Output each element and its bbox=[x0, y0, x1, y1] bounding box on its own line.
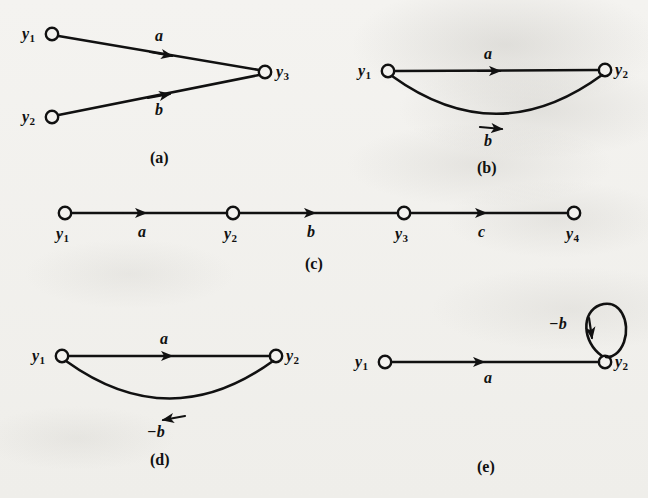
caption-c: (c) bbox=[305, 256, 323, 272]
figure-drawing bbox=[0, 0, 648, 498]
signal-flow-graph-figure: y1 y2 y3 a b (a) y1 y2 a b (b) y1 y2 y3 … bbox=[0, 0, 648, 498]
node-label-c-y1: y1 bbox=[56, 226, 69, 244]
node-a-y3 bbox=[259, 66, 271, 78]
node-c-y2 bbox=[227, 207, 239, 219]
edge-label-a-a: a bbox=[155, 28, 163, 44]
caption-b: (b) bbox=[477, 160, 497, 176]
caption-a: (a) bbox=[150, 150, 169, 166]
node-label-c-y4: y4 bbox=[566, 226, 579, 244]
node-b-y2 bbox=[599, 64, 611, 76]
edge-label-d-a: a bbox=[160, 331, 168, 347]
node-label-b-y1: y1 bbox=[358, 63, 371, 81]
edge-label-c-b: b bbox=[307, 224, 315, 240]
edge-label-e-a: a bbox=[484, 370, 492, 386]
node-label-c-y3: y3 bbox=[395, 226, 408, 244]
edge-d-bottom-nb bbox=[66, 361, 273, 399]
caption-d: (d) bbox=[150, 452, 170, 468]
node-label-a-y2: y2 bbox=[22, 109, 35, 127]
node-label-b-y2: y2 bbox=[615, 62, 628, 80]
node-label-a-y1: y1 bbox=[22, 26, 35, 44]
node-d-y2 bbox=[270, 350, 282, 362]
edge-label-d-nb: −b bbox=[147, 424, 165, 440]
arrowhead-e-loop bbox=[589, 318, 592, 338]
node-label-e-y1: y1 bbox=[355, 354, 368, 372]
node-c-y1 bbox=[59, 207, 71, 219]
arrowhead-b-edge-b bbox=[480, 127, 502, 129]
node-label-a-y3: y3 bbox=[276, 64, 289, 82]
arrowhead-d-edge-nb bbox=[163, 416, 185, 420]
edge-e-self-loop-nb bbox=[586, 304, 626, 357]
edge-b-bottom-b bbox=[392, 75, 602, 114]
node-label-d-y2: y2 bbox=[286, 348, 299, 366]
edge-label-c-a: a bbox=[138, 224, 146, 240]
edge-label-a-b: b bbox=[155, 102, 163, 118]
node-c-y3 bbox=[398, 207, 410, 219]
node-a-y2 bbox=[46, 111, 58, 123]
node-a-y1 bbox=[46, 28, 58, 40]
edge-label-e-nb: −b bbox=[549, 316, 567, 332]
node-label-d-y1: y1 bbox=[32, 348, 45, 366]
edge-label-c-c: c bbox=[478, 224, 485, 240]
node-c-y4 bbox=[568, 207, 580, 219]
node-label-c-y2: y2 bbox=[224, 226, 237, 244]
edge-label-b-b: b bbox=[484, 133, 492, 149]
node-label-e-y2: y2 bbox=[615, 354, 628, 372]
caption-e: (e) bbox=[477, 459, 495, 475]
edge-label-b-a: a bbox=[484, 46, 492, 62]
node-e-y1 bbox=[379, 356, 391, 368]
